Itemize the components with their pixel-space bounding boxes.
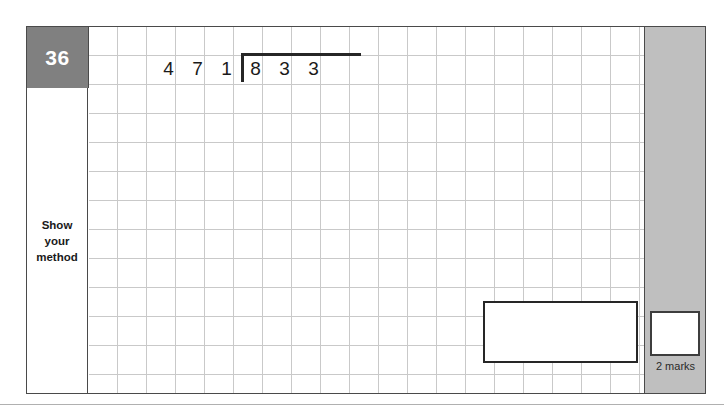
dividend-digit-4: 3: [299, 54, 328, 83]
question-number-badge: 36: [27, 27, 88, 88]
squared-working-grid[interactable]: 4 7 1 8 3 3: [89, 27, 644, 393]
answer-box-rectangle[interactable]: [483, 301, 638, 363]
dividend-digit-1: 1: [212, 54, 241, 83]
instruction-line-3: method: [36, 249, 78, 265]
divisor-digit-2: 7: [183, 54, 212, 83]
instruction-line-1: Show: [36, 217, 78, 233]
dividend-digit-3: 3: [270, 54, 299, 83]
page-separator-rule: [0, 404, 724, 405]
question-frame: 36 Show your method 4 7 1 8 3 3 2 marks: [26, 26, 706, 394]
marks-answer-box[interactable]: [650, 311, 700, 356]
marks-sidebar: 2 marks: [644, 27, 705, 393]
dividend-digit-2: 8: [241, 54, 270, 83]
show-your-method-label: Show your method: [27, 88, 88, 393]
marks-label: 2 marks: [645, 360, 706, 372]
instruction-line-2: your: [36, 233, 78, 249]
divisor-digit-1: 4: [154, 54, 183, 83]
